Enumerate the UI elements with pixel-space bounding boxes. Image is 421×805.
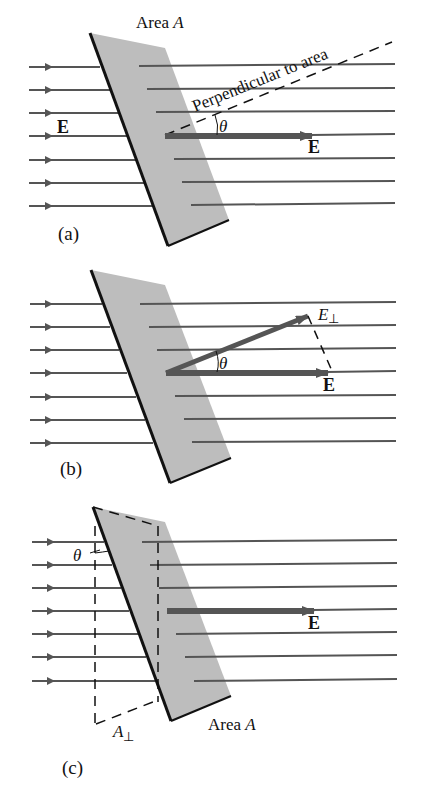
panel-b: E⊥ E θ (b) xyxy=(30,270,396,483)
area-label: Area A xyxy=(208,715,256,734)
perp-component-label: E⊥ xyxy=(317,305,339,326)
caption-b: (b) xyxy=(60,458,82,480)
angle-label: θ xyxy=(219,354,227,373)
caption-a: (a) xyxy=(58,223,79,245)
caption-c: (c) xyxy=(62,757,83,779)
angle-arc xyxy=(215,115,218,135)
field-label-left: E xyxy=(57,117,69,137)
projected-area-label: A⊥ xyxy=(112,722,134,744)
field-vector-label: E xyxy=(323,375,335,395)
panel-c: θ E Area A A⊥ (c) xyxy=(32,507,397,779)
angle-label: θ xyxy=(73,546,81,565)
field-vector-label: E xyxy=(308,137,320,157)
plate-area-b xyxy=(91,270,231,483)
angle-label: θ xyxy=(219,117,227,136)
perpendicular-label: Perpendicular to area xyxy=(189,44,330,116)
panel-a: Area A Perpendicular to area E E θ (a) xyxy=(29,13,395,246)
field-vector-label: E xyxy=(308,613,320,633)
area-label: Area A xyxy=(136,13,184,32)
electric-flux-diagram: Area A Perpendicular to area E E θ (a) xyxy=(0,0,421,805)
